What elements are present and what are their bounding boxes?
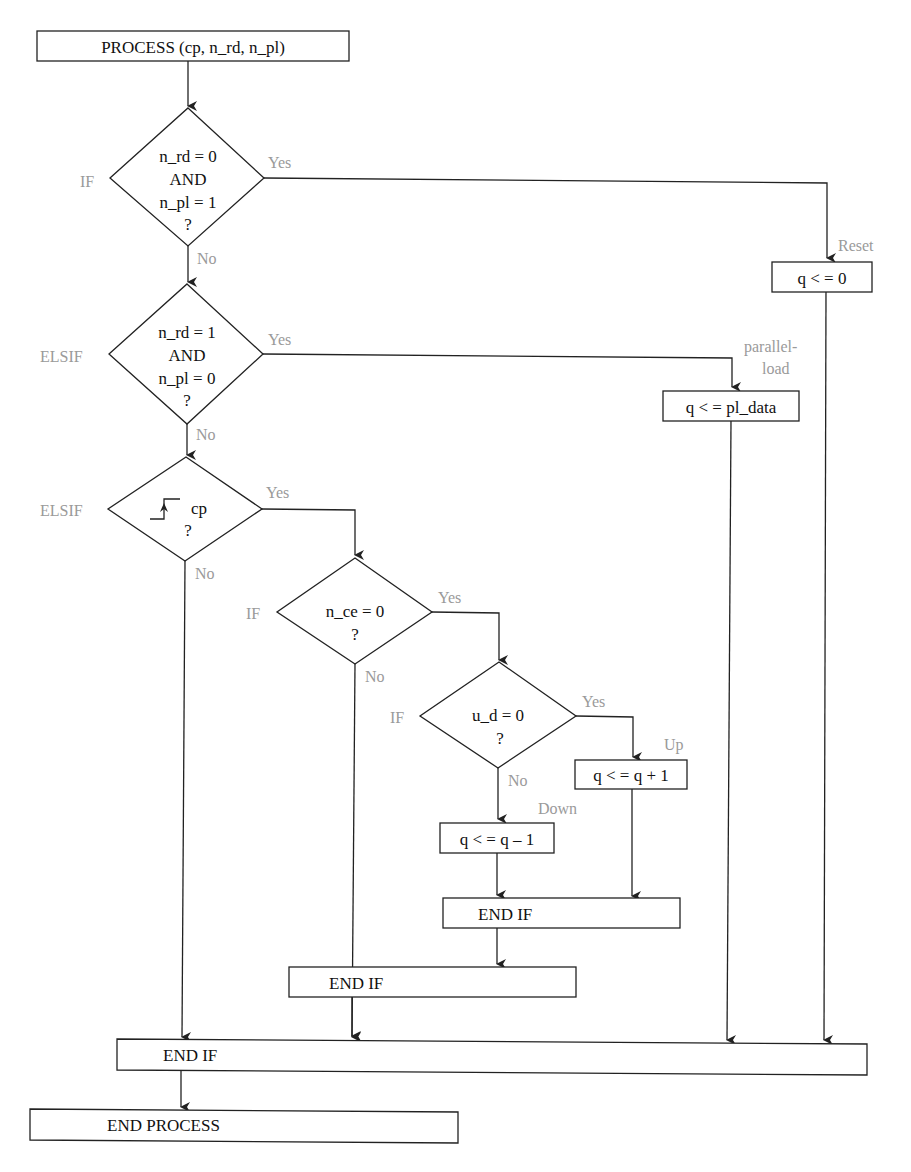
cond2-line1: n_rd = 1: [158, 323, 216, 342]
up-action-box: q < = q + 1: [575, 760, 687, 789]
arrow-cond5-yes: [576, 716, 633, 757]
cond1-no-label: No: [197, 250, 217, 267]
process-start-box: PROCESS (cp, n_rd, n_pl): [37, 31, 349, 61]
cond2-line4: ?: [183, 391, 191, 410]
cond4-yes-label: Yes: [438, 589, 461, 606]
cond2-keyword: ELSIF: [40, 348, 83, 365]
end-if-inner-text: END IF: [478, 905, 532, 924]
load-action-box: q < = pl_data: [663, 391, 799, 421]
cond2-line2: AND: [169, 346, 206, 365]
cond1-line1: n_rd = 0: [159, 147, 217, 166]
cond3-line2: ?: [184, 521, 192, 540]
cond3-yes-label: Yes: [266, 484, 289, 501]
cond5-line2: ?: [496, 729, 504, 748]
end-if-middle-text: END IF: [329, 974, 383, 993]
cond4-line1: n_ce = 0: [326, 602, 385, 621]
arrow-reset-to-endif: [824, 292, 826, 1040]
cond3-no-label: No: [195, 565, 215, 582]
arrow-cond3-yes: [262, 509, 355, 555]
up-action-text: q < = q + 1: [593, 766, 669, 785]
flowchart: PROCESS (cp, n_rd, n_pl) n_rd = 0 AND n_…: [0, 0, 911, 1172]
cond2-yes-label: Yes: [268, 331, 291, 348]
cond1-line3: n_pl = 1: [160, 193, 217, 212]
cond4-no-label: No: [365, 668, 385, 685]
arrow-cond4-yes: [432, 612, 499, 660]
end-if-inner-box: END IF: [443, 898, 680, 928]
end-if-middle-box: END IF: [289, 967, 576, 997]
end-process-text: END PROCESS: [107, 1116, 220, 1135]
arrow-cond1-yes: [264, 178, 827, 258]
cond4-keyword: IF: [246, 605, 260, 622]
cond5-line1: u_d = 0: [472, 706, 524, 725]
decision-cond3: cp ?: [108, 457, 262, 561]
up-label: Up: [664, 736, 684, 754]
parallel-load-label-2: load: [762, 360, 790, 377]
end-process-box: END PROCESS: [30, 1109, 458, 1143]
cond1-yes-label: Yes: [268, 154, 291, 171]
reset-action-text: q < = 0: [798, 269, 847, 288]
end-if-outer-box: END IF: [117, 1039, 867, 1075]
down-label: Down: [538, 800, 577, 817]
down-action-box: q < = q – 1: [440, 823, 554, 853]
cond4-line2: ?: [351, 625, 359, 644]
cond5-yes-label: Yes: [582, 693, 605, 710]
down-action-text: q < = q – 1: [460, 830, 534, 849]
decision-cond1: n_rd = 0 AND n_pl = 1 ?: [110, 108, 264, 246]
cond2-no-label: No: [196, 426, 216, 443]
cond5-keyword: IF: [390, 709, 404, 726]
cond2-line3: n_pl = 0: [159, 369, 216, 388]
end-if-outer-text: END IF: [163, 1046, 217, 1065]
arrow-cond3-no: [182, 561, 185, 1037]
arrow-load-to-endif: [727, 421, 731, 1040]
process-start-text: PROCESS (cp, n_rd, n_pl): [101, 38, 285, 57]
arrow-cond2-yes: [263, 354, 732, 387]
decision-cond2: n_rd = 1 AND n_pl = 0 ?: [109, 284, 263, 424]
cond3-keyword: ELSIF: [40, 502, 83, 519]
cond5-no-label: No: [508, 772, 528, 789]
parallel-load-label-1: parallel-: [744, 338, 797, 356]
cond1-keyword: IF: [80, 173, 94, 190]
cond1-line4: ?: [184, 215, 192, 234]
load-action-text: q < = pl_data: [686, 398, 777, 417]
decision-cond4: n_ce = 0 ?: [277, 558, 432, 664]
decision-cond5: u_d = 0 ?: [420, 662, 576, 768]
cond1-line2: AND: [170, 170, 207, 189]
reset-action-box: q < = 0: [772, 262, 872, 292]
reset-label: Reset: [838, 237, 874, 254]
cond3-line1: cp: [191, 499, 207, 518]
